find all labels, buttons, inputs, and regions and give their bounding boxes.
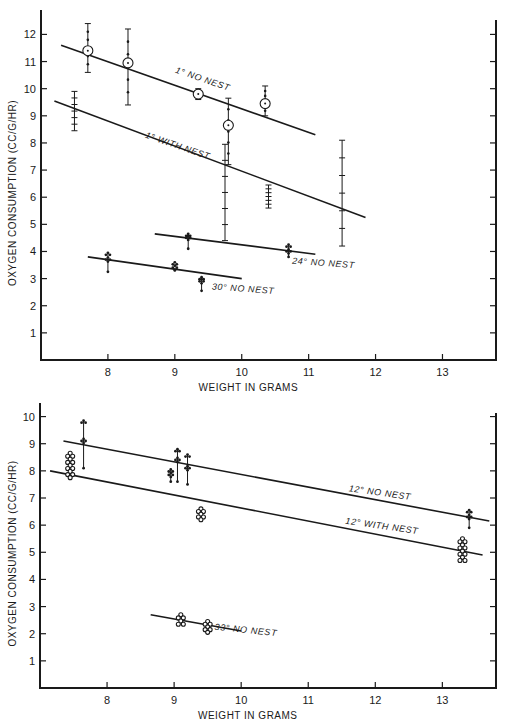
observation-dot [198,280,201,283]
observation-dot [109,253,112,256]
data-point [193,89,203,100]
observation-dot [127,53,130,56]
data-point [285,243,292,258]
observation-dot [169,476,172,479]
observation-dot [188,467,191,470]
x-tick-label: 9 [172,366,178,378]
axes-frame [40,403,496,688]
observation-dot [167,474,170,477]
data-point [458,537,467,563]
observation-dot [184,455,187,458]
series-label: 1° WITH NEST [144,130,212,162]
observation-dot [227,108,230,111]
x-tick-label: 12 [369,694,381,706]
observation-dot [175,266,178,269]
observation-dot [176,480,179,483]
series-1-with-nest: 1° WITH NEST [54,91,365,246]
y-tick-label: 2 [30,300,36,312]
observation-open [176,622,180,626]
observation-dot [188,455,191,458]
observation-dot [468,518,471,521]
observation-dot [187,235,190,238]
x-tick-label: 11 [303,694,314,706]
y-tick-label: 9 [30,110,36,122]
y-tick-label: 7 [30,164,36,176]
y-tick-label: 8 [29,465,35,477]
observation-dot [202,280,205,283]
observation-dot [80,440,83,443]
observation-dot [169,472,172,475]
observation-dot [107,270,110,273]
observation-dot [173,261,176,264]
y-tick-label: 7 [29,492,35,504]
observation-dot [174,459,177,462]
observation-dot [84,440,87,443]
series-label: 24° NO NEST [291,256,356,270]
observation-dot [82,442,85,445]
observation-dot [287,255,290,258]
observation-dot [171,474,174,477]
data-point [222,144,228,240]
data-point [83,24,93,73]
observation-dot [80,421,83,424]
x-tick-label: 13 [436,366,448,378]
y-axis-title: OXYGEN CONSUMPTION (CC/G/HR) [7,100,18,286]
observation-dot [107,256,110,259]
observation-open [463,558,467,562]
observation-dot [200,278,203,281]
x-tick-label: 12 [369,366,381,378]
observation-dot [227,152,230,155]
observation-dot [186,453,189,456]
regression-line [50,471,483,555]
y-axis-title: OXYGEN CONSUMPTION (CC/G/HR) [7,460,18,646]
mean-center [127,62,129,64]
observation-dot [127,40,130,43]
observation-dot [187,247,190,250]
observation-dot [82,419,85,422]
data-point [266,185,272,208]
observation-dot [466,516,469,519]
observation-dot [107,251,110,254]
data-point [260,86,270,116]
series-label: 12° NO NEST [348,483,412,502]
series-label: 12° WITH NEST [345,516,420,536]
mean-center [227,124,229,126]
series-label: 30° NO NEST [211,281,275,295]
y-tick-label: 11 [25,56,36,68]
observation-dot [264,95,267,98]
observation-dot [176,461,179,464]
observation-dot [287,252,290,255]
observation-dot [87,63,90,66]
data-point [203,620,212,635]
y-tick-label: 1 [30,327,36,339]
observation-dot [287,243,290,246]
observation-dot [468,526,471,529]
y-tick-label: 2 [29,628,35,640]
series-24-no-nest: 24° NO NEST [155,232,356,270]
x-axis-title: WEIGHT IN GRAMS [199,382,299,393]
observation-dot [289,250,292,253]
y-tick-label: 8 [30,137,36,149]
data-point [184,453,191,486]
y-tick-label: 4 [30,245,36,257]
series-33-no-nest: 33° NO NEST [151,613,279,639]
observation-dot [178,450,181,453]
figure: 1234567891011128910111213WEIGHT IN GRAMS… [0,0,508,727]
observation-dot [82,467,85,470]
observation-dot [285,245,288,248]
observation-dot [84,421,87,424]
y-tick-label: 9 [29,438,35,450]
observation-dot [82,438,85,441]
regression-line [63,441,489,521]
observation-open [68,476,72,480]
observation-open [181,622,185,626]
data-point [66,451,75,479]
observation-open [206,630,210,634]
y-tick-label: 12 [24,28,36,40]
data-point [71,91,77,130]
mean-center [197,93,199,95]
data-point [174,448,181,483]
x-tick-label: 11 [303,366,314,378]
y-tick-label: 10 [24,83,36,95]
observation-dot [470,511,473,514]
